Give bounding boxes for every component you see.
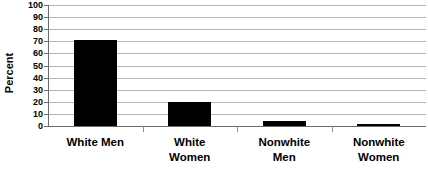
x-axis-category-label-line: White Men bbox=[48, 135, 143, 150]
gridline bbox=[48, 29, 426, 30]
y-axis-title: Percent bbox=[0, 38, 18, 108]
x-axis-category-label-line: Women bbox=[332, 150, 427, 165]
gridline bbox=[48, 5, 426, 6]
y-axis-tick-label: 80 bbox=[18, 25, 43, 34]
y-axis-tick-label: 0 bbox=[18, 122, 43, 131]
y-axis-tick-labels: 1009080706050403020100 bbox=[18, 5, 43, 126]
y-axis-tick-label: 60 bbox=[18, 49, 43, 58]
y-axis-tick-label: 20 bbox=[18, 98, 43, 107]
y-axis-tick-label: 10 bbox=[18, 110, 43, 119]
bar-chart: Percent 1009080706050403020100 White Men… bbox=[0, 0, 428, 179]
x-axis-category-labels: White MenWhiteWomenNonwhiteMenNonwhiteWo… bbox=[48, 133, 426, 179]
y-axis-tick-mark bbox=[44, 66, 49, 67]
x-axis-category-label-line: Women bbox=[143, 150, 238, 165]
y-axis-tick-label: 70 bbox=[18, 37, 43, 46]
y-axis-tick-label: 50 bbox=[18, 62, 43, 71]
y-axis-tick-mark bbox=[44, 126, 49, 127]
y-axis-tick-mark bbox=[44, 17, 49, 18]
x-axis-category-label-line: Men bbox=[237, 150, 332, 165]
y-axis-tick-mark bbox=[44, 102, 49, 103]
bar bbox=[168, 102, 211, 126]
gridline bbox=[48, 17, 426, 18]
x-axis-category-separator bbox=[143, 126, 144, 132]
y-axis-tick-mark bbox=[44, 90, 49, 91]
y-axis-tick-mark bbox=[44, 5, 49, 6]
y-axis-tick-mark bbox=[44, 78, 49, 79]
y-axis-title-text: Percent bbox=[3, 53, 15, 93]
y-axis-tick-label: 90 bbox=[18, 13, 43, 22]
x-axis-category-label-line: Nonwhite bbox=[237, 135, 332, 150]
y-axis-tick-mark bbox=[44, 29, 49, 30]
x-axis-category-label: White Men bbox=[48, 133, 143, 179]
x-axis-category-label-line: White bbox=[143, 135, 238, 150]
y-axis-tick-label: 30 bbox=[18, 86, 43, 95]
x-axis-category-label: WhiteWomen bbox=[143, 133, 238, 179]
y-axis-tick-mark bbox=[44, 41, 49, 42]
x-axis-category-label-line: Nonwhite bbox=[332, 135, 427, 150]
y-axis-tick-label: 100 bbox=[18, 1, 43, 10]
plot-area bbox=[48, 5, 426, 126]
bar bbox=[263, 121, 306, 126]
x-axis-category-label: NonwhiteWomen bbox=[332, 133, 427, 179]
x-axis-category-separator bbox=[332, 126, 333, 132]
y-axis-tick-mark bbox=[44, 53, 49, 54]
x-axis-category-label: NonwhiteMen bbox=[237, 133, 332, 179]
y-axis-tick-mark bbox=[44, 114, 49, 115]
bar bbox=[74, 40, 117, 126]
x-axis-category-separator bbox=[237, 126, 238, 132]
bar bbox=[357, 124, 400, 126]
y-axis-tick-label: 40 bbox=[18, 74, 43, 83]
